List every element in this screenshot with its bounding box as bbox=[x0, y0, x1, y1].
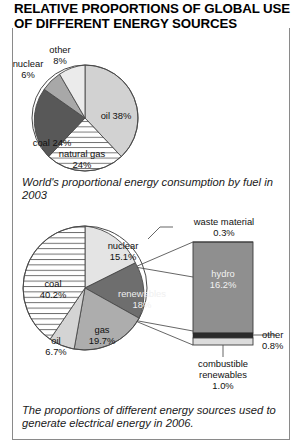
bar-label-other: other 0.8% bbox=[262, 329, 302, 351]
bar-segment-other bbox=[193, 333, 253, 338]
pie-1-label-coal: coal 24% bbox=[26, 137, 78, 148]
caption-first-chart: World's proportional energy consumption … bbox=[22, 176, 284, 203]
caption-second-chart: The proportions of different energy sour… bbox=[22, 404, 284, 431]
bar-label-waste-material: waste material 0.3% bbox=[176, 216, 272, 238]
pie-2-label-coal: coal 40.2% bbox=[26, 278, 80, 300]
pie-2-label-nuclear: nuclear 15.1% bbox=[92, 240, 154, 262]
pie-2-label-renewables: renewables 18% bbox=[106, 288, 178, 310]
frame-bottom-rule bbox=[12, 439, 290, 440]
bar-label-combustible-renewables: combustible renewables 1.0% bbox=[185, 358, 261, 391]
pie-1-label-natural-gas: natural gas 24% bbox=[48, 148, 116, 170]
figure-page: RELATIVE PROPORTIONS OF GLOBAL USE OF DI… bbox=[0, 0, 305, 445]
pie-1-label-nuclear: nuclear 6% bbox=[4, 58, 52, 80]
pie-2-label-oil: oil 6.7% bbox=[36, 335, 76, 357]
breakout-stacked-bar bbox=[193, 242, 253, 345]
page-title: RELATIVE PROPORTIONS OF GLOBAL USE OF DI… bbox=[14, 2, 296, 31]
bar-segment-combustible-renewables bbox=[193, 338, 253, 345]
pie-2-label-gas: gas 19.7% bbox=[76, 324, 128, 346]
bar-label-hydro: hydro 16.2% bbox=[197, 268, 249, 290]
pie-1-label-oil: oil 38% bbox=[88, 110, 144, 121]
